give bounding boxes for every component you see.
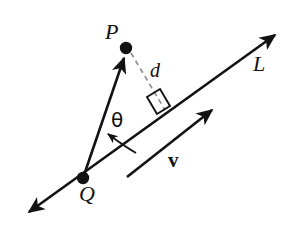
right-angle-marker bbox=[147, 89, 170, 114]
point-p-dot bbox=[120, 42, 132, 54]
label-point-p: P bbox=[105, 21, 118, 43]
label-line-l: L bbox=[253, 53, 265, 75]
label-vector-v: v bbox=[168, 150, 179, 171]
figure-canvas bbox=[0, 0, 302, 239]
label-distance-d: d bbox=[150, 60, 160, 80]
label-angle-theta: θ bbox=[111, 110, 123, 130]
geometry-figure: P Q L d θ v bbox=[0, 0, 302, 239]
label-point-q: Q bbox=[79, 183, 95, 205]
